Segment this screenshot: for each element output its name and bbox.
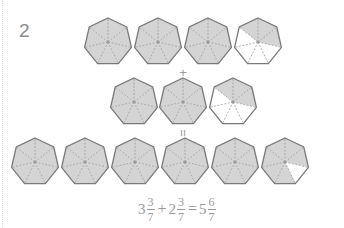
heptagon [235,18,282,64]
term-b-fraction: 3 7 [177,196,185,223]
term-b-denominator: 7 [178,211,184,223]
mixed-number-equation: 3 3 7 + 2 3 7 = 5 6 7 [138,192,217,226]
result-whole: 5 [199,201,207,218]
heptagon-rows [12,18,309,184]
heptagon [62,138,109,184]
heptagon [262,138,309,184]
heptagon [185,18,232,64]
heptagon [162,138,209,184]
term-b-numerator: 3 [178,196,184,208]
result-denominator: 7 [209,211,215,223]
equals-sign: = [176,129,191,137]
heptagon [111,78,158,124]
term-a-fraction: 3 7 [147,196,155,223]
term-a-numerator: 3 [148,196,154,208]
heptagon [12,138,59,184]
term-b-whole: 2 [169,201,177,218]
heptagon [210,78,257,124]
plus-operator: + [158,200,167,218]
result-numerator: 6 [209,196,215,208]
heptagon [212,138,259,184]
heptagon [135,18,182,64]
heptagon [112,138,159,184]
heptagon [85,18,132,64]
plus-sign: + [179,65,187,80]
heptagon [160,78,207,124]
equals-operator: = [188,200,197,218]
term-a-whole: 3 [138,201,146,218]
result-fraction: 6 7 [208,196,216,223]
term-a-denominator: 7 [148,211,154,223]
